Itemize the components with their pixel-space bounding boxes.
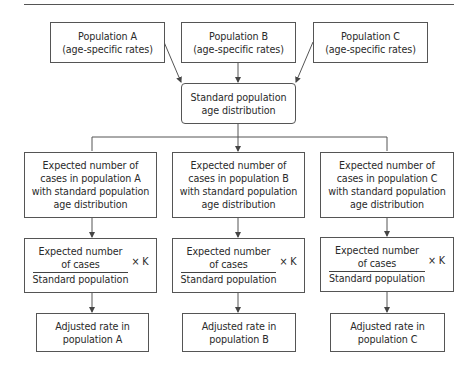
population-a-box: Population A (age-specific rates) [50, 22, 165, 63]
fraction-numerator: Expected number of cases [335, 244, 419, 271]
population-c-box: Population C (age-specific rates) [313, 22, 428, 63]
fraction-numerator: Expected number of cases [39, 245, 123, 272]
population-a-label: Population A (age-specific rates) [62, 30, 153, 56]
standard-population-box: Standard population age distribution [181, 83, 296, 124]
adjusted-rate-a-label: Adjusted rate in population A [55, 320, 130, 346]
population-b-label: Population B (age-specific rates) [193, 30, 284, 56]
fraction-denominator: Standard population [33, 272, 129, 286]
expected-cases-b-box: Expected number of cases in population B… [172, 152, 305, 218]
fraction-numerator: Expected number of cases [187, 245, 271, 272]
fraction-denominator: Standard population [329, 271, 425, 285]
fraction-denominator: Standard population [181, 272, 277, 286]
expected-cases-b-label: Expected number of cases in population B… [180, 159, 298, 211]
population-c-label: Population C (age-specific rates) [325, 30, 416, 56]
population-b-box: Population B (age-specific rates) [181, 22, 296, 63]
multiplier-k: × K [428, 254, 445, 267]
adjusted-rate-c-box: Adjusted rate in population C [330, 313, 445, 352]
expected-cases-c-box: Expected number of cases in population C… [320, 152, 454, 218]
expected-cases-a-box: Expected number of cases in population A… [24, 152, 157, 218]
rate-fraction-c: Expected number of cases Standard popula… [329, 244, 425, 285]
adjusted-rate-b-label: Adjusted rate in population B [202, 320, 277, 346]
rate-formula-b-box: Expected number of cases Standard popula… [172, 238, 305, 293]
multiplier-k: × K [279, 255, 296, 268]
adjusted-rate-a-box: Adjusted rate in population A [36, 313, 149, 352]
expected-cases-c-label: Expected number of cases in population C… [328, 159, 446, 211]
multiplier-k: × K [131, 255, 148, 268]
adjusted-rate-b-box: Adjusted rate in population B [182, 313, 296, 352]
adjusted-rate-c-label: Adjusted rate in population C [350, 320, 425, 346]
rate-fraction-a: Expected number of cases Standard popula… [33, 245, 129, 286]
rate-fraction-b: Expected number of cases Standard popula… [181, 245, 277, 286]
expected-cases-a-label: Expected number of cases in population A… [32, 159, 150, 211]
rate-formula-a-box: Expected number of cases Standard popula… [24, 238, 157, 293]
rate-formula-c-box: Expected number of cases Standard popula… [320, 237, 454, 292]
standard-population-label: Standard population age distribution [191, 91, 287, 117]
